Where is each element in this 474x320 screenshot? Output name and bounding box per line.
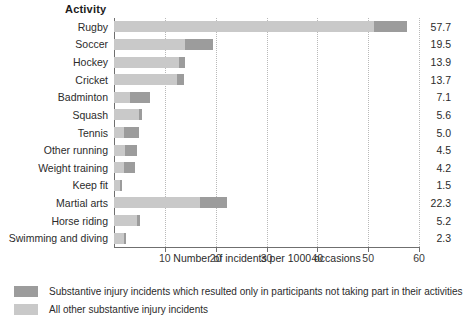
bar-value-label: 19.5 xyxy=(425,38,451,50)
bar-row: Keep fit1.5 xyxy=(114,180,419,191)
category-label: Tennis xyxy=(78,127,108,139)
bar-segment xyxy=(139,109,142,120)
bar-value-label: 5.6 xyxy=(425,109,451,121)
bar-segment xyxy=(200,197,227,208)
bar-value-label: 7.1 xyxy=(425,91,451,103)
category-label: Weight training xyxy=(38,162,108,174)
bar-row: Tennis5.0 xyxy=(114,127,419,138)
category-label: Badminton xyxy=(58,91,108,103)
bar-segment xyxy=(114,74,177,85)
bar-segment xyxy=(374,21,407,32)
plot-area: 102030405060 Rugby57.7Soccer19.5Hockey13… xyxy=(114,18,419,247)
bar-segment xyxy=(130,92,150,103)
bar-value-label: 13.7 xyxy=(425,74,451,86)
bar-segment xyxy=(120,180,122,191)
bar-segment xyxy=(114,197,200,208)
bar-segment xyxy=(124,127,139,138)
legend-item: All other substantive injury incidents xyxy=(14,302,463,316)
bar-segment xyxy=(114,233,124,244)
bar-value-label: 57.7 xyxy=(425,21,451,33)
bar-value-label: 13.9 xyxy=(425,56,451,68)
bar-segment xyxy=(114,57,179,68)
bar-value-label: 1.5 xyxy=(425,179,451,191)
legend-item: Substantive injury incidents which resul… xyxy=(14,284,463,298)
bar-segment xyxy=(179,57,185,68)
bar-segment xyxy=(185,39,213,50)
gridline-60 xyxy=(419,18,421,247)
bar-value-label: 4.2 xyxy=(425,162,451,174)
bar-value-label: 5.0 xyxy=(425,127,451,139)
category-label: Squash xyxy=(72,109,108,121)
bar-value-label: 5.2 xyxy=(425,215,451,227)
category-label: Horse riding xyxy=(51,215,108,227)
bar-segment xyxy=(114,145,125,156)
x-axis-title: Number of incidents per 1000 occasions xyxy=(114,252,420,264)
category-label: Hockey xyxy=(73,56,108,68)
bar-segment xyxy=(124,162,136,173)
bar-segment xyxy=(114,39,185,50)
bar-row: Cricket13.7 xyxy=(114,74,419,85)
category-label: Martial arts xyxy=(56,197,108,209)
bar-row: Soccer19.5 xyxy=(114,39,419,50)
bar-value-label: 2.3 xyxy=(425,232,451,244)
bar-row: Swimming and diving2.3 xyxy=(114,233,419,244)
bar-segment xyxy=(125,145,137,156)
legend-label: All other substantive injury incidents xyxy=(49,304,208,315)
bar-value-label: 22.3 xyxy=(425,197,451,209)
bar-row: Other running4.5 xyxy=(114,145,419,156)
bar-value-label: 4.5 xyxy=(425,144,451,156)
bar-segment xyxy=(137,215,141,226)
stacked-bar-chart: Activity 102030405060 Rugby57.7Soccer19.… xyxy=(0,0,474,320)
bar-row: Hockey13.9 xyxy=(114,57,419,68)
category-label: Swimming and diving xyxy=(9,232,108,244)
category-label: Rugby xyxy=(78,21,108,33)
legend-label: Substantive injury incidents which resul… xyxy=(49,286,463,297)
legend-swatch xyxy=(14,304,38,315)
legend-swatch xyxy=(14,286,38,297)
bar-row: Weight training4.2 xyxy=(114,162,419,173)
bar-segment xyxy=(177,74,184,85)
bar-segment xyxy=(114,92,130,103)
category-label: Keep fit xyxy=(72,179,108,191)
bar-segment xyxy=(114,127,124,138)
category-label: Cricket xyxy=(75,74,108,86)
category-label: Soccer xyxy=(75,38,108,50)
bar-row: Badminton7.1 xyxy=(114,92,419,103)
chart-legend: Substantive injury incidents which resul… xyxy=(14,284,463,320)
category-column-header: Activity xyxy=(65,3,106,15)
bar-segment xyxy=(114,215,137,226)
bar-segment xyxy=(114,162,124,173)
bar-row: Squash5.6 xyxy=(114,109,419,120)
category-label: Other running xyxy=(44,144,108,156)
bar-row: Rugby57.7 xyxy=(114,21,419,32)
bar-segment xyxy=(124,233,126,244)
bar-row: Martial arts22.3 xyxy=(114,197,419,208)
bar-segment xyxy=(114,109,139,120)
bar-segment xyxy=(114,21,374,32)
bar-row: Horse riding5.2 xyxy=(114,215,419,226)
